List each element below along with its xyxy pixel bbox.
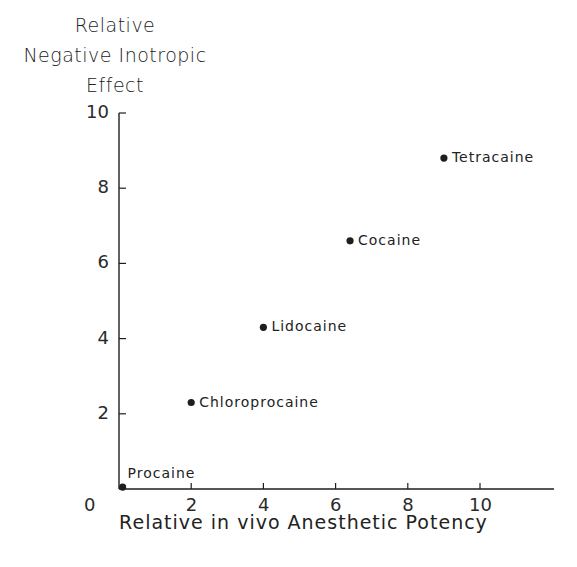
y-tick-label: 8 xyxy=(98,176,109,197)
clipped-caption-fragment xyxy=(0,561,577,567)
y-tick-label: 6 xyxy=(98,251,109,272)
y-tick-label: 2 xyxy=(98,402,109,423)
scatter-chart: Relative Negative Inotropic Effect 24681… xyxy=(0,0,577,567)
point-label-cocaine: Cocaine xyxy=(358,232,421,248)
point-label-tetracaine: Tetracaine xyxy=(452,149,534,165)
data-point-chloroprocaine xyxy=(188,399,195,406)
data-point-procaine xyxy=(119,484,126,491)
axes xyxy=(119,113,554,489)
data-point-cocaine xyxy=(346,237,353,244)
data-point-tetracaine xyxy=(440,155,447,162)
point-label-chloroprocaine: Chloroprocaine xyxy=(199,394,319,410)
y-tick-label: 4 xyxy=(98,327,109,348)
y-axis-label-line-2: Negative Inotropic xyxy=(10,44,220,66)
point-label-lidocaine: Lidocaine xyxy=(271,318,347,334)
y-axis-label-line-1: Relative xyxy=(10,14,220,36)
data-point-lidocaine xyxy=(260,324,267,331)
y-tick-label: 10 xyxy=(86,101,109,122)
point-label-procaine: Procaine xyxy=(128,465,196,481)
x-axis-label: Relative in vivo Anesthetic Potency xyxy=(0,511,577,533)
y-axis-label-line-3: Effect xyxy=(10,74,220,96)
